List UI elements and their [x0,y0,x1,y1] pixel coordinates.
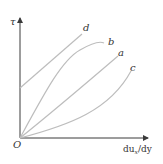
origin-label: O [13,139,21,150]
curve-c [20,71,131,138]
curve-a [20,56,118,138]
curve-label-c: c [130,62,136,73]
x-axis-label: dux/dy [123,144,153,155]
curve-label-d: d [83,22,89,33]
curve-d [20,34,82,88]
curve-b [20,42,104,138]
rheology-diagram: d b a c τ O dux/dy [0,0,163,164]
y-axis-label: τ [10,16,16,27]
curve-label-a: a [118,47,124,58]
curve-label-b: b [108,36,114,47]
